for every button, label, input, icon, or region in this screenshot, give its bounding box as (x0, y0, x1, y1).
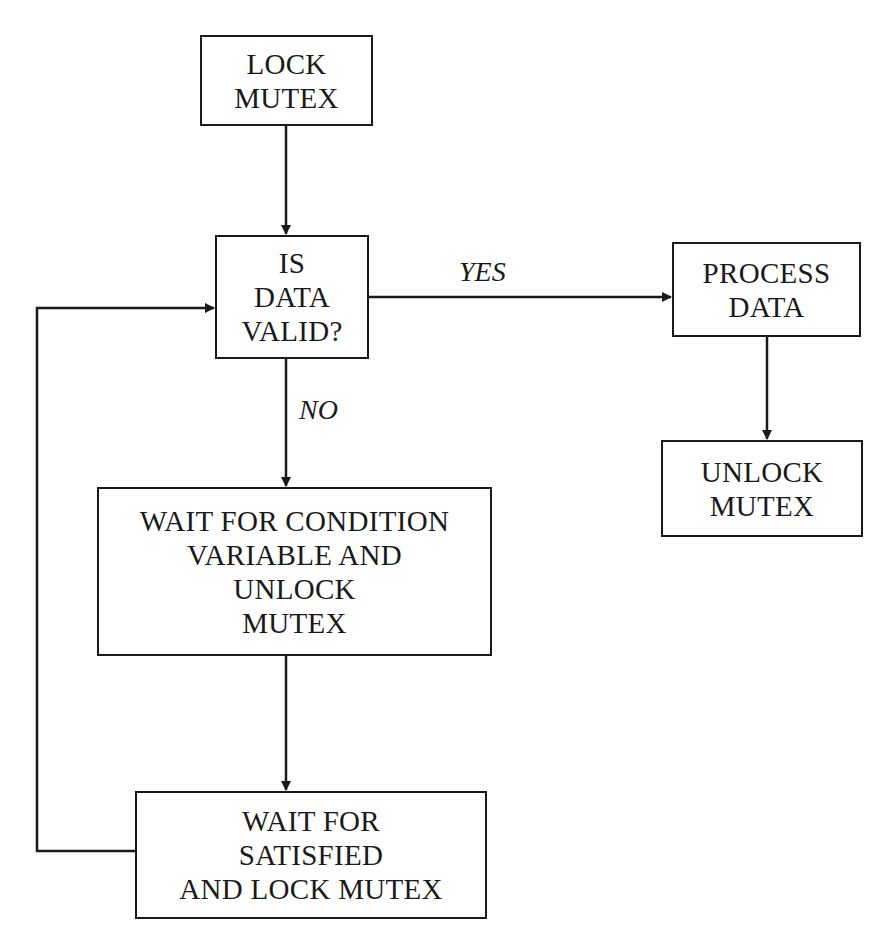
node-text: UNLOCK (233, 572, 356, 606)
node-text: LOCK (246, 47, 326, 81)
node-text: VARIABLE AND (187, 538, 402, 572)
node-text: MUTEX (710, 489, 815, 523)
node-text: WAIT FOR (242, 804, 380, 838)
node-wait-satisfied: WAIT FOR SATISFIED AND LOCK MUTEX (135, 791, 487, 919)
node-text: MUTEX (242, 606, 347, 640)
edge-label-no: NO (299, 394, 338, 426)
edge-label-yes: YES (459, 256, 506, 288)
node-unlock-mutex: UNLOCK MUTEX (661, 440, 863, 537)
node-text: IS (279, 246, 305, 280)
node-text: WAIT FOR CONDITION (140, 504, 449, 538)
node-text: MUTEX (234, 81, 339, 115)
node-wait-condition: WAIT FOR CONDITION VARIABLE AND UNLOCK M… (97, 487, 492, 656)
node-text: VALID? (241, 314, 342, 348)
node-text: AND LOCK MUTEX (179, 872, 443, 906)
node-lock-mutex: LOCK MUTEX (200, 35, 373, 126)
node-process-data: PROCESS DATA (672, 242, 861, 337)
node-text: DATA (728, 290, 804, 324)
node-text: DATA (254, 280, 330, 314)
node-text: PROCESS (703, 256, 831, 290)
node-text: SATISFIED (239, 838, 384, 872)
node-is-data-valid: IS DATA VALID? (215, 235, 369, 359)
node-text: UNLOCK (701, 455, 824, 489)
